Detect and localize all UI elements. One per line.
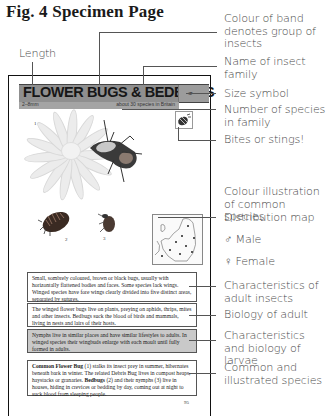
species-bold-2: Bedbugs [85, 377, 106, 383]
species-box: Common Flower Bug (1) stalks its insect … [27, 360, 197, 396]
leader-species-number [122, 109, 216, 110]
label-species-number: Number of species in family [224, 104, 328, 129]
family-band: FLOWER BUGS & BEDBUGS ✒ [19, 84, 209, 103]
leader-larvae [189, 340, 216, 341]
sub-band: 2–8mm about 30 species in Britain [19, 102, 179, 109]
label-length: Length [19, 48, 56, 61]
male-symbol-icon: ♂ [224, 233, 232, 246]
flower-bug-illustration [80, 118, 150, 188]
adult-biology-box: The winged flower bugs live on plants, p… [27, 303, 197, 327]
leader-map [158, 217, 216, 218]
label-distribution-map: Distribution map [224, 212, 328, 225]
leader-bites-h [178, 140, 216, 141]
illustration-number-2: 2 [65, 237, 68, 242]
leader-family-h [143, 66, 217, 67]
illustration-number-3: 3 [103, 236, 106, 241]
label-adult-biology: Biology of adult [224, 309, 328, 322]
leader-adult-characteristics [189, 286, 216, 287]
larvae-box: Nymphs live in similar places and have s… [27, 329, 197, 353]
distribution-map [152, 214, 203, 265]
leader-bites-v [178, 127, 179, 140]
label-size-symbol: Size symbol [224, 88, 328, 101]
label-band-colour: Colour of band denotes group of insects [224, 13, 328, 51]
page-number: 95 [184, 400, 189, 405]
bedbug-illustration [38, 208, 74, 238]
label-adult-characteristics: Characteristics of adult insects [224, 280, 328, 305]
male-text: Male [236, 233, 262, 246]
illustration-number-1: 1 [34, 121, 37, 126]
leader-family-v [143, 66, 144, 85]
label-bites: Bites or stings! [224, 134, 328, 147]
label-female: ♀ Female [224, 256, 328, 269]
female-text: Female [236, 255, 275, 268]
adult-characteristics-box: Small, sombrely coloured, brown or black… [27, 272, 197, 302]
length-value: 2–8mm [22, 101, 39, 107]
leader-size [186, 93, 216, 94]
figure-title: Fig. 4 Specimen Page [6, 2, 164, 22]
label-male: ♂ Male [224, 234, 328, 247]
species-count: about 30 species in Britain [116, 101, 175, 107]
leader-adult-biology [189, 315, 216, 316]
leader-length [32, 62, 33, 85]
label-species: Common and illustrated species [224, 362, 328, 387]
size-symbol-icon: ✒ [188, 90, 194, 98]
leader-band-colour-h [99, 32, 217, 33]
female-symbol-icon: ♀ [224, 255, 232, 268]
leader-band-colour-v [99, 32, 100, 85]
species-bold-1: Common Flower Bug [32, 363, 83, 369]
nymph-illustration [98, 210, 118, 234]
leader-species [189, 373, 216, 374]
label-family-name: Name of insect family [224, 56, 328, 81]
